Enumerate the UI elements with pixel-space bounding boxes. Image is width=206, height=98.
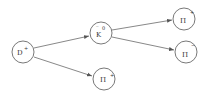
edge-dplus-piplus2	[34, 57, 92, 76]
k0bar-symbol: K	[96, 31, 102, 39]
piplus2-charge: +	[110, 72, 114, 78]
node-piplus-2: Π +	[93, 68, 115, 90]
edge-k0bar-piplus1	[112, 20, 172, 30]
dplus-symbol: D	[17, 49, 23, 57]
piminus-symbol: Π	[182, 51, 188, 59]
node-k0bar: ‾ K 0	[90, 22, 112, 44]
piminus-charge: −	[191, 42, 195, 48]
node-piminus: Π −	[175, 41, 197, 63]
piplus1-charge: +	[190, 9, 194, 15]
edge-dplus-k0bar	[34, 36, 89, 48]
dplus-charge: +	[24, 45, 28, 51]
node-piplus-1: Π +	[173, 8, 195, 30]
node-dplus: D +	[12, 41, 34, 63]
piplus2-symbol: Π	[100, 76, 106, 84]
edge-k0bar-piminus	[112, 37, 174, 50]
piplus1-symbol: Π	[180, 17, 186, 25]
k0bar-charge: 0	[102, 25, 105, 31]
decay-diagram: D + ‾ K 0 Π + Π − Π +	[0, 0, 206, 98]
